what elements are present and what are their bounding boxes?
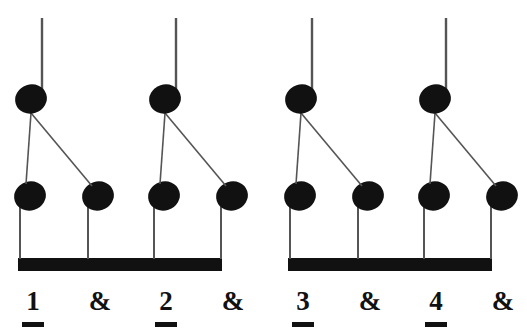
lower-note-2-head <box>78 177 117 214</box>
count-label-1: 1 <box>8 288 58 327</box>
count-label-and-4-glyph: & <box>478 288 527 315</box>
upper-note-4-head <box>415 80 454 117</box>
count-label-2-underline <box>155 322 177 327</box>
group-2-beam <box>288 258 492 271</box>
group-2 <box>280 18 521 271</box>
lower-note-5-head <box>280 177 319 214</box>
count-label-4-underline <box>425 322 447 327</box>
lower-note-7-head <box>414 177 453 214</box>
group-1-beam <box>18 258 222 271</box>
connector-diagonal-1 <box>31 113 92 186</box>
connector-straight-3 <box>296 113 301 184</box>
count-label-2-glyph: 2 <box>141 288 191 315</box>
connector-straight-4 <box>430 113 435 184</box>
upper-note-3-head <box>281 80 320 117</box>
connector-diagonal-2 <box>165 113 226 186</box>
upper-note-1-head <box>11 80 50 117</box>
lower-note-3-head <box>144 177 183 214</box>
count-label-3-glyph: 3 <box>278 288 328 315</box>
lower-note-4-head <box>212 177 251 214</box>
rhythm-notation-figure: 1&2&3&4& <box>0 0 527 329</box>
group-1 <box>10 18 251 271</box>
count-label-and-1: & <box>75 288 125 315</box>
lower-note-8-head <box>482 177 521 214</box>
lower-note-6-head <box>348 177 387 214</box>
count-label-1-underline <box>22 322 44 327</box>
count-label-and-2-glyph: & <box>208 288 258 315</box>
count-label-1-glyph: 1 <box>8 288 58 315</box>
connector-straight-2 <box>160 113 165 184</box>
lower-note-1-head <box>10 177 49 214</box>
count-label-2: 2 <box>141 288 191 327</box>
count-label-3: 3 <box>278 288 328 327</box>
count-label-and-4: & <box>478 288 527 315</box>
count-label-and-2: & <box>208 288 258 315</box>
count-label-3-underline <box>292 322 314 327</box>
notation-canvas <box>0 0 527 329</box>
connector-straight-1 <box>26 113 31 184</box>
count-label-and-1-glyph: & <box>75 288 125 315</box>
count-label-4: 4 <box>411 288 461 327</box>
connector-diagonal-3 <box>301 113 362 186</box>
connector-diagonal-4 <box>435 113 496 186</box>
upper-note-2-head <box>145 80 184 117</box>
count-label-and-3-glyph: & <box>345 288 395 315</box>
count-label-and-3: & <box>345 288 395 315</box>
count-label-4-glyph: 4 <box>411 288 461 315</box>
